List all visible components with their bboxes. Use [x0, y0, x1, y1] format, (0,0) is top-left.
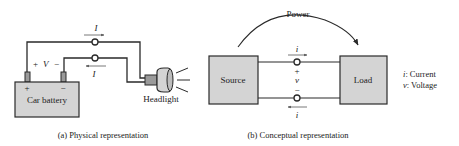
headlight-label: Headlight: [143, 94, 179, 104]
figure: I I + V − + − Car battery Headlight (a) …: [0, 0, 459, 146]
bottom-terminal: [294, 95, 300, 101]
bottom-wire: [64, 58, 92, 78]
voltage-label: v: [295, 75, 299, 85]
headlight-lens: [167, 69, 173, 91]
top-wire-right: [98, 42, 146, 78]
source-label: Source: [221, 75, 246, 85]
bottom-terminal: [92, 55, 98, 61]
load-label: Load: [354, 75, 373, 85]
battery-terminal-plus: [25, 72, 30, 82]
voltage-minus: −: [294, 85, 299, 95]
panel-b-conceptual: Power Source Load i i + v − i: Current v…: [209, 9, 437, 140]
light-ray-3: [176, 87, 188, 92]
battery-plus-mark: +: [24, 83, 29, 93]
power-label: Power: [287, 9, 310, 19]
battery-minus-mark: −: [60, 83, 65, 93]
voltage-label: V: [43, 59, 50, 69]
voltage-plus: +: [33, 59, 38, 69]
current-label-top: I: [94, 23, 99, 33]
panel-a-physical: I I + V − + − Car battery Headlight (a) …: [15, 23, 190, 140]
light-ray-1: [176, 68, 188, 73]
legend-voltage: v: Voltage: [403, 80, 437, 90]
voltage-minus: −: [54, 59, 59, 69]
current-label-bottom: I: [92, 69, 97, 79]
legend-current: i: Current: [403, 69, 436, 79]
current-label-top: i: [296, 44, 299, 54]
current-label-bottom: i: [296, 110, 299, 120]
top-terminal: [294, 59, 300, 65]
top-terminal: [92, 39, 98, 45]
battery-label: Car battery: [27, 95, 68, 105]
caption-b: (b) Conceptual representation: [247, 130, 349, 140]
battery-terminal-minus: [61, 72, 66, 82]
caption-a: (a) Physical representation: [58, 130, 149, 140]
bottom-wire-right: [98, 58, 146, 82]
power-arc-arrow: [238, 15, 358, 47]
headlight-socket: [145, 75, 157, 85]
